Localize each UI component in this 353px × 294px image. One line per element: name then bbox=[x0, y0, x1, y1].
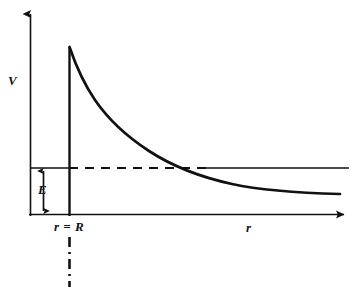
y-axis-label: V bbox=[8, 74, 17, 87]
potential-diagram-figure: V E r = R r bbox=[0, 0, 353, 294]
x-axis-label: r bbox=[246, 221, 251, 234]
radius-marker-label: r = R bbox=[54, 220, 84, 233]
energy-level-label: E bbox=[38, 183, 47, 196]
plot-canvas bbox=[0, 0, 353, 294]
potential-curve bbox=[70, 47, 341, 194]
